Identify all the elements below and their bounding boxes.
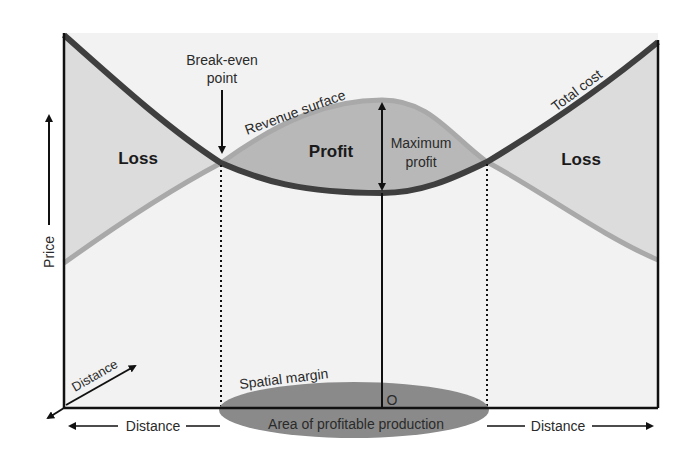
spatial-margin-diagram: Break-even point Revenue surface Total c… xyxy=(0,0,698,450)
break-even-label-1: Break-even xyxy=(186,52,258,68)
origin-label: O xyxy=(387,392,398,408)
max-profit-label-2: profit xyxy=(405,154,436,170)
break-even-label-2: point xyxy=(207,70,237,86)
loss-left-label: Loss xyxy=(118,149,158,168)
max-profit-label-1: Maximum xyxy=(391,135,452,151)
distance-left-label: Distance xyxy=(126,418,181,434)
loss-right-label: Loss xyxy=(561,150,601,169)
price-axis-label: Price xyxy=(41,236,57,268)
depth-axis xyxy=(48,408,64,418)
area-profitable-label: Area of profitable production xyxy=(268,416,444,432)
profit-label: Profit xyxy=(309,142,354,161)
distance-right-label: Distance xyxy=(531,418,586,434)
